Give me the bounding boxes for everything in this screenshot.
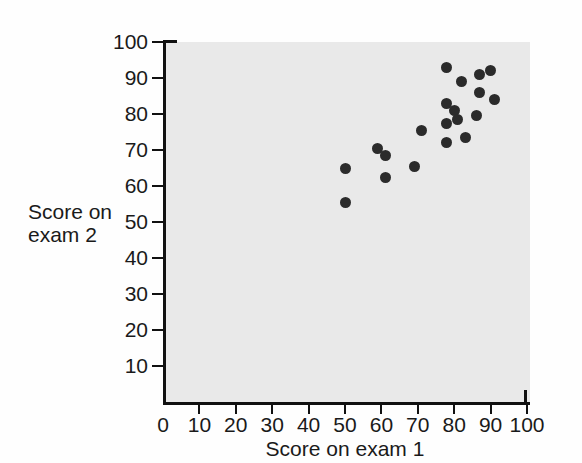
x-axis-title: Score on exam 1 [163, 438, 527, 460]
data-point [474, 87, 485, 98]
x-axis-tick-label: 100 [497, 414, 557, 436]
y-axis-tick-label: 20 [94, 319, 148, 340]
y-axis-tick [152, 149, 164, 151]
y-axis-tick [152, 293, 164, 295]
y-axis-tick [152, 221, 164, 223]
y-axis-tick-label: 90 [94, 67, 148, 88]
y-axis-title-line-2: exam 2 [28, 223, 148, 246]
y-axis-tick [152, 329, 164, 331]
y-axis-tick [152, 185, 164, 187]
y-axis-title: Score on exam 2 [28, 200, 148, 246]
y-axis-tick-label: 80 [94, 103, 148, 124]
data-point [380, 172, 391, 183]
scatter-plot-figure: 102030405060708090100 010203040506070809… [0, 0, 582, 463]
y-axis-tick [152, 257, 164, 259]
y-axis-tick [152, 77, 164, 79]
y-axis-tick-label: 100 [94, 31, 148, 52]
data-point [460, 132, 471, 143]
data-point [456, 76, 467, 87]
y-axis-tick [152, 365, 164, 367]
y-axis-tick-label: 60 [94, 175, 148, 196]
data-point [340, 197, 351, 208]
data-point [409, 161, 420, 172]
data-point [474, 69, 485, 80]
y-axis-tick-label: 30 [94, 283, 148, 304]
data-point [471, 110, 482, 121]
y-axis-tick [152, 41, 164, 43]
data-point [340, 163, 351, 174]
y-axis-tick-label: 40 [94, 247, 148, 268]
y-axis-tick-label: 10 [94, 355, 148, 376]
data-point [416, 125, 427, 136]
y-axis-tick [152, 113, 164, 115]
y-axis-title-line-1: Score on [28, 200, 148, 223]
plot-frame-top-tick [163, 40, 177, 43]
data-point [441, 118, 452, 129]
data-point [489, 94, 500, 105]
y-axis-tick-label: 70 [94, 139, 148, 160]
data-point [380, 150, 391, 161]
